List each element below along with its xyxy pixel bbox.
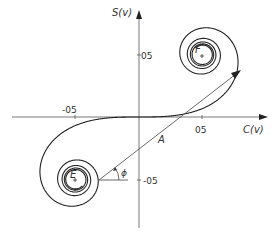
angle-label-phi: ϕ xyxy=(121,168,127,178)
vector-label-a: A xyxy=(157,134,165,145)
point-label-f: F xyxy=(195,44,201,55)
vector-a-arrowhead-icon xyxy=(231,70,241,79)
y-axis-arrow-icon xyxy=(136,10,142,19)
y-tick-label-neg: -05 xyxy=(143,176,158,186)
y-axis-label: S(v) xyxy=(112,7,132,18)
x-axis-label: C(v) xyxy=(243,124,264,135)
x-tick-label-neg: -05 xyxy=(62,105,77,115)
x-tick-label-pos: 05 xyxy=(195,125,206,135)
vector-a xyxy=(99,74,236,180)
y-tick-label-pos: 05 xyxy=(141,51,152,61)
point-label-e: E xyxy=(70,169,77,180)
cornu-spiral-diagram: S(v) C(v) -05 05 05 -05 F E A ϕ xyxy=(0,0,277,237)
x-axis-arrow-icon xyxy=(259,114,268,120)
